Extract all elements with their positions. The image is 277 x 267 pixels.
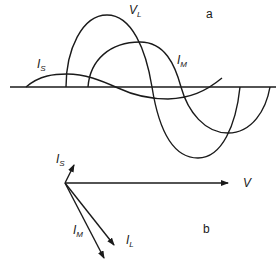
is-phasor	[65, 165, 74, 183]
il-phasor-label: IL	[126, 234, 134, 249]
panel-a-tag: a	[206, 8, 213, 20]
im-phasor	[65, 183, 104, 258]
v-phasor-label: V	[243, 177, 251, 189]
is-phasor-label: IS	[56, 153, 65, 168]
im-phasor-label: IM	[73, 224, 83, 239]
is-label: IS	[37, 58, 46, 73]
vl-label: VL	[129, 4, 141, 19]
im-label: IM	[177, 54, 187, 69]
phasor-waveform-diagram	[0, 0, 277, 267]
panel-b-tag: b	[203, 223, 210, 235]
